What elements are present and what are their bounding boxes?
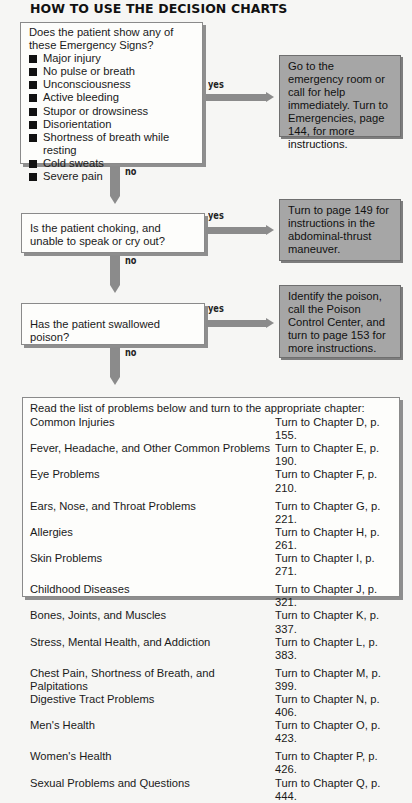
problem-name: Chest Pain, Shortness of Breath, and Pal… (30, 667, 275, 693)
chapter-ref: Turn to Chapter I, p. 271. (275, 552, 392, 578)
chapter-ref: Turn to Chapter O, p. 423. (275, 719, 392, 745)
list-item: Shortness of breath while resting (29, 131, 194, 157)
list-item: Active bleeding (29, 91, 194, 104)
problem-name: Digestive Tract Problems (30, 693, 275, 719)
no-arrow-icon (110, 166, 120, 196)
problem-name: Skin Problems (30, 552, 275, 578)
no-arrow-icon (110, 347, 120, 377)
question-text: Does the patient show any of these Emerg… (29, 26, 194, 52)
table-row: AllergiesTurn to Chapter H, p. 261. (30, 526, 392, 552)
table-row: Sexual Problems and QuestionsTurn to Cha… (30, 777, 392, 803)
chapter-ref: Turn to Chapter N, p. 406. (275, 693, 392, 719)
chapter-ref: Turn to Chapter G, p. 221. (275, 500, 392, 526)
chapter-group: Ears, Nose, and Throat ProblemsTurn to C… (30, 500, 392, 579)
no-label: no (125, 255, 136, 266)
emergency-signs-list: Major injury No pulse or breath Unconsci… (29, 52, 194, 183)
no-label: no (125, 347, 136, 358)
chapter-ref: Turn to Chapter H, p. 261. (275, 526, 392, 552)
chapter-ref: Turn to Chapter M, p. 399. (275, 667, 392, 693)
table-row: Bones, Joints, and MusclesTurn to Chapte… (30, 609, 392, 635)
problem-name: Stress, Mental Health, and Addiction (30, 636, 275, 662)
table-row: Common InjuriesTurn to Chapter D, p. 155… (30, 416, 392, 442)
problem-name: Allergies (30, 526, 275, 552)
yes-label: yes (208, 79, 224, 90)
problem-name: Childhood Diseases (30, 583, 275, 609)
problem-name: Bones, Joints, and Muscles (30, 609, 275, 635)
table-row: Stress, Mental Health, and AddictionTurn… (30, 636, 392, 662)
problem-name: Men's Health (30, 719, 275, 745)
table-row: Digestive Tract ProblemsTurn to Chapter … (30, 693, 392, 719)
action-box-emergency: Go to the emergency room or call for hel… (279, 55, 401, 137)
yes-arrow-icon (206, 320, 266, 327)
chapter-group: Childhood DiseasesTurn to Chapter J, p. … (30, 583, 392, 662)
problem-name: Fever, Headache, and Other Common Proble… (30, 442, 275, 468)
list-item: Disorientation (29, 118, 194, 131)
chapter-ref: Turn to Chapter J, p. 321. (275, 583, 392, 609)
problem-name: Common Injuries (30, 416, 275, 442)
table-row: Ears, Nose, and Throat ProblemsTurn to C… (30, 500, 392, 526)
chapter-ref: Turn to Chapter F, p. 210. (275, 468, 392, 494)
chapter-ref: Turn to Chapter K, p. 337. (275, 609, 392, 635)
list-item: Major injury (29, 52, 194, 65)
action-box-choking: Turn to page 149 for instructions in the… (279, 199, 401, 261)
no-arrow-icon (110, 255, 120, 285)
chapter-list-box: Read the list of problems below and turn… (22, 397, 400, 597)
question-box-choking: Is the patient choking, and unable to sp… (21, 213, 205, 253)
chapter-group: Women's HealthTurn to Chapter P, p. 426.… (30, 750, 392, 802)
action-box-poison: Identify the poison, call the Poison Con… (279, 285, 401, 358)
table-row: Fever, Headache, and Other Common Proble… (30, 442, 392, 468)
list-item: Unconsciousness (29, 78, 194, 91)
no-label: no (125, 166, 136, 177)
table-row: Eye ProblemsTurn to Chapter F, p. 210. (30, 468, 392, 494)
chapter-group: Common InjuriesTurn to Chapter D, p. 155… (30, 416, 392, 495)
yes-arrow-icon (206, 227, 266, 234)
chapter-ref: Turn to Chapter Q, p. 444. (275, 777, 392, 803)
yes-label: yes (208, 303, 224, 314)
problem-name: Women's Health (30, 750, 275, 776)
problem-name: Sexual Problems and Questions (30, 777, 275, 803)
chapter-ref: Turn to Chapter L, p. 383. (275, 636, 392, 662)
table-row: Women's HealthTurn to Chapter P, p. 426. (30, 750, 392, 776)
yes-arrow-icon (206, 94, 266, 101)
chapter-ref: Turn to Chapter P, p. 426. (275, 750, 392, 776)
list-item: No pulse or breath (29, 65, 194, 78)
table-row: Skin ProblemsTurn to Chapter I, p. 271. (30, 552, 392, 578)
chapter-group: Chest Pain, Shortness of Breath, and Pal… (30, 667, 392, 746)
chapter-ref: Turn to Chapter D, p. 155. (275, 416, 392, 442)
page-title: HOW TO USE THE DECISION CHARTS (30, 1, 287, 16)
yes-label: yes (208, 210, 224, 221)
question-box-poison: Has the patient swallowed poison? (21, 303, 205, 345)
chapter-ref: Turn to Chapter E, p. 190. (275, 442, 392, 468)
chapter-list-intro: Read the list of problems below and turn… (30, 402, 392, 415)
table-row: Chest Pain, Shortness of Breath, and Pal… (30, 667, 392, 693)
problem-name: Eye Problems (30, 468, 275, 494)
table-row: Men's HealthTurn to Chapter O, p. 423. (30, 719, 392, 745)
problem-name: Ears, Nose, and Throat Problems (30, 500, 275, 526)
list-item: Stupor or drowsiness (29, 105, 194, 118)
table-row: Childhood DiseasesTurn to Chapter J, p. … (30, 583, 392, 609)
question-box-emergency-signs: Does the patient show any of these Emerg… (20, 22, 203, 164)
